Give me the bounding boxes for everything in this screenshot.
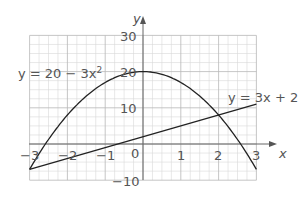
y-tick-10: 10 [120,101,137,116]
x-tick-2: 2 [214,148,222,163]
x-tick-neg2: −2 [58,148,77,163]
y-tick-neg10: −10 [112,174,139,189]
y-tick-20: 20 [120,65,137,80]
parabola-label-text: y = 20 − 3x [18,66,97,81]
x-axis-label: x [278,146,287,161]
x-tick-0: 0 [131,146,139,161]
x-tick-neg1: −1 [96,148,115,163]
function-graph: x y 30 20 10 −10 −3 −2 −1 0 1 2 3 y = 20… [0,0,308,198]
x-tick-1: 1 [177,148,185,163]
y-tick-30: 30 [120,29,137,44]
y-axis-label: y [132,11,141,26]
x-axis-arrow-icon [269,141,277,147]
parabola-label-exponent: 2 [97,65,103,75]
y-axis-arrow-icon [140,16,146,24]
x-tick-3: 3 [252,148,260,163]
x-tick-neg3: −3 [20,148,39,163]
parabola-label: y = 20 − 3x2 [18,65,102,81]
line-label: y = 3x + 2 [228,90,298,105]
